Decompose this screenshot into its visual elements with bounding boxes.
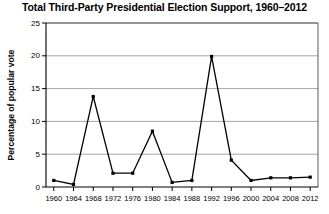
plot-border	[46, 23, 318, 187]
x-tick-label-1984: 1984	[164, 194, 181, 203]
line-chart-canvas: 0510152025 19601964196819721976198019841…	[0, 0, 329, 214]
data-point-1976	[131, 172, 134, 175]
y-tick-label-25: 25	[31, 19, 40, 28]
x-tick-label-2008: 2008	[282, 194, 299, 203]
data-point-1992	[210, 55, 213, 58]
x-tick-label-1968: 1968	[85, 194, 102, 203]
data-point-1964	[72, 183, 75, 186]
x-tick-label-1988: 1988	[184, 194, 201, 203]
data-point-1980	[151, 130, 154, 133]
y-tick-label-0: 0	[36, 183, 41, 192]
data-point-2012	[309, 176, 312, 179]
data-point-markers	[52, 55, 312, 186]
x-axis-ticks: 1960196419681972197619801984198819921996…	[45, 187, 318, 203]
x-tick-label-1992: 1992	[203, 194, 220, 203]
data-point-2000	[249, 179, 252, 182]
data-point-1996	[230, 159, 233, 162]
data-point-1984	[171, 181, 174, 184]
y-tick-label-10: 10	[31, 117, 40, 126]
x-tick-label-2000: 2000	[243, 194, 260, 203]
data-point-2004	[269, 176, 272, 179]
x-tick-label-1960: 1960	[45, 194, 62, 203]
x-tick-label-2012: 2012	[302, 194, 319, 203]
y-axis-ticks: 0510152025	[31, 19, 46, 192]
data-point-2008	[289, 176, 292, 179]
y-tick-label-20: 20	[31, 51, 40, 60]
data-point-1972	[111, 172, 114, 175]
series-polyline-total-third-party	[54, 56, 310, 184]
plot-frame	[46, 23, 318, 187]
y-axis-label: Percentage of popular vote	[6, 49, 16, 160]
data-point-1968	[92, 95, 95, 98]
grid-lines	[46, 23, 318, 154]
x-tick-label-1972: 1972	[105, 194, 122, 203]
data-point-1988	[190, 179, 193, 182]
x-tick-label-1964: 1964	[65, 194, 82, 203]
y-axis-label-text: Percentage of popular vote	[6, 49, 16, 160]
chart-figure: Total Third-Party Presidential Election …	[0, 0, 329, 214]
x-tick-label-1996: 1996	[223, 194, 240, 203]
x-tick-label-1976: 1976	[124, 194, 141, 203]
data-series-line	[54, 56, 310, 184]
x-tick-label-1980: 1980	[144, 194, 161, 203]
data-point-1960	[52, 179, 55, 182]
y-tick-label-5: 5	[36, 150, 41, 159]
x-tick-label-2004: 2004	[262, 194, 279, 203]
y-tick-label-15: 15	[31, 84, 40, 93]
